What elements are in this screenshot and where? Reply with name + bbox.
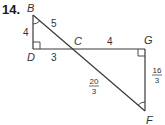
vertex-C-label: C [74, 35, 82, 47]
angle-arc-B-icon [33, 21, 40, 24]
length-CF-denominator: 3 [92, 87, 97, 96]
angle-arc-F-icon [138, 102, 145, 105]
length-GF-denominator: 3 [155, 76, 160, 85]
vertex-F-label: F [146, 114, 154, 125]
vertex-B-label: B [27, 2, 34, 14]
length-BC: 5 [51, 18, 57, 29]
right-angle-G-icon [138, 49, 145, 56]
right-angle-D-icon [33, 42, 40, 49]
vertex-G-label: G [144, 34, 153, 46]
problem-number: 14. [2, 2, 20, 17]
vertex-D-label: D [27, 51, 35, 63]
length-DC: 3 [51, 52, 57, 63]
length-CF-numerator: 20 [90, 77, 99, 86]
segment-BF [33, 15, 145, 111]
length-BD: 4 [23, 27, 29, 38]
length-CG: 4 [107, 36, 113, 47]
similar-triangles-diagram: 14. B D C G F 4 5 3 4 20 3 16 3 [0, 0, 165, 125]
length-GF-numerator: 16 [153, 66, 162, 75]
